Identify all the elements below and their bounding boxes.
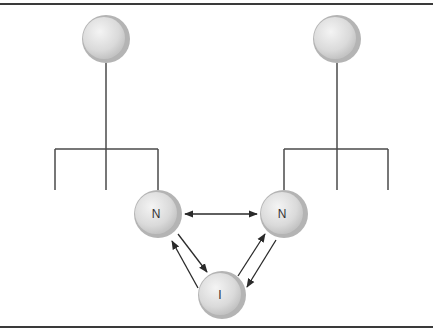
network-diagram: N N I <box>0 0 433 335</box>
edge-n-left-to-i <box>178 234 207 272</box>
right-tree <box>284 63 388 190</box>
edge-i-to-n-right <box>238 234 265 276</box>
edge-n-right-to-i <box>247 240 276 287</box>
n-left-node: N <box>134 190 182 238</box>
i-node-label: I <box>218 288 221 302</box>
root-left-node <box>82 15 130 63</box>
n-right-label: N <box>278 207 287 221</box>
root-right-node <box>313 15 361 63</box>
edge-i-to-n-left <box>172 241 198 288</box>
n-right-node: N <box>260 190 308 238</box>
i-node: I <box>198 271 246 319</box>
left-tree <box>55 63 158 190</box>
n-left-label: N <box>152 207 161 221</box>
